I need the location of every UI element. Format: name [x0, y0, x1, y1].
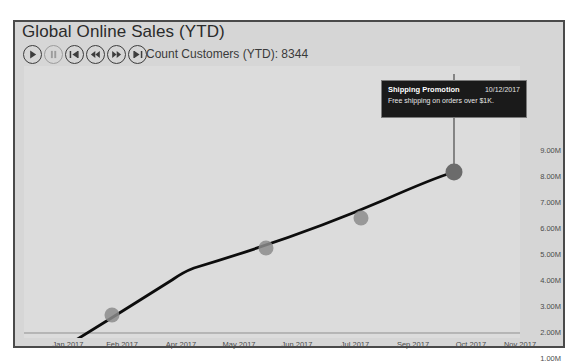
step-forward-icon — [108, 46, 125, 63]
y-tick-label: 3.00M — [540, 302, 561, 311]
data-marker-oct-highlighted[interactable] — [446, 164, 463, 181]
y-tick-label: 9.00M — [540, 146, 561, 155]
step-back-button[interactable] — [86, 45, 105, 64]
pause-icon — [45, 46, 62, 63]
x-tick-label: Sep 2017 — [397, 340, 429, 349]
data-marker-aug[interactable] — [354, 211, 369, 226]
annotation-body-text: Free shipping on orders over $1K. — [388, 97, 520, 104]
play-icon — [24, 46, 41, 63]
y-tick-label: 1.00M — [540, 354, 561, 363]
annotation-callout[interactable]: Shipping Promotion 10/12/2017 Free shipp… — [381, 80, 527, 118]
y-tick-label: 8.00M — [540, 172, 561, 181]
step-forward-button[interactable] — [107, 45, 126, 64]
playback-controls — [23, 44, 147, 64]
x-tick-label: Jul 2017 — [341, 340, 369, 349]
y-tick-label: 6.00M — [540, 224, 561, 233]
y-tick-label: 2.00M — [540, 328, 561, 337]
x-tick-label: Jan 2017 — [53, 340, 84, 349]
x-tick-label: Oct 2017 — [456, 340, 486, 349]
annotation-header: Shipping Promotion 10/12/2017 — [388, 85, 520, 94]
chart-panel: Global Online Sales (YTD) — [13, 20, 565, 348]
x-tick-label: Apr 2017 — [166, 340, 196, 349]
skip-to-start-icon — [66, 46, 83, 63]
skip-to-end-button[interactable] — [128, 45, 147, 64]
skip-to-start-button[interactable] — [65, 45, 84, 64]
annotation-date: 10/12/2017 — [485, 86, 520, 93]
y-tick-label: 7.00M — [540, 198, 561, 207]
x-tick-label: Feb 2017 — [106, 340, 138, 349]
data-marker-feb[interactable] — [105, 308, 120, 323]
y-tick-label: 4.00M — [540, 276, 561, 285]
annotation-title: Shipping Promotion — [388, 85, 460, 94]
x-tick-label: May 2017 — [223, 340, 256, 349]
pause-button[interactable] — [44, 45, 63, 64]
y-tick-label: 5.00M — [540, 250, 561, 259]
x-tick-label: Nov 2017 — [504, 340, 536, 349]
step-back-icon — [87, 46, 104, 63]
skip-to-end-icon — [129, 46, 146, 63]
play-button[interactable] — [23, 45, 42, 64]
page-title: Global Online Sales (YTD) — [22, 22, 225, 42]
data-marker-jun[interactable] — [259, 241, 274, 256]
y-axis: 9.00M 8.00M 7.00M 6.00M 5.00M 4.00M 3.00… — [523, 66, 565, 338]
chart-header: Global Online Sales (YTD) — [15, 22, 563, 64]
x-axis: Jan 2017 Feb 2017 Apr 2017 May 2017 Jun … — [24, 340, 520, 354]
measure-readout: Count Customers (YTD): 8344 — [146, 45, 308, 63]
x-tick-label: Jun 2017 — [282, 340, 313, 349]
